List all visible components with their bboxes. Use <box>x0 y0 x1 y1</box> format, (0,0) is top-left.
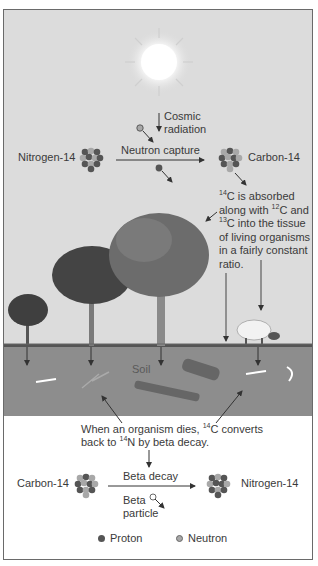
branch-icon <box>134 380 200 402</box>
log-icon <box>181 357 221 381</box>
legend-neutron: Neutron <box>176 532 227 545</box>
absorption-note: 14C is absorbed along with 12C and 13C i… <box>219 190 310 271</box>
proton-swatch-icon <box>98 535 105 542</box>
bottom-nitrogen-14-label: Nitrogen-14 <box>241 477 298 490</box>
bottom-nitrogen-14-nucleus-icon <box>207 474 231 499</box>
top-nitrogen-14-label: Nitrogen-14 <box>18 151 75 164</box>
twig-icon <box>82 372 109 388</box>
incoming-neutron-icon <box>137 125 153 142</box>
horn-icon <box>287 367 292 381</box>
sun-icon <box>125 28 193 96</box>
small-tree-icon <box>8 294 48 346</box>
neutron-capture-label: Neutron capture <box>121 144 200 157</box>
ejected-proton-icon <box>156 165 172 182</box>
bottom-carbon-14-nucleus-icon <box>75 474 99 499</box>
bottom-carbon-14-label: Carbon-14 <box>17 477 69 490</box>
death-arrow-left <box>102 396 122 423</box>
bone-icon <box>36 379 56 382</box>
sheep-icon <box>237 320 280 344</box>
legend-neutron-label: Neutron <box>188 532 227 545</box>
carbon-14-nucleus-icon <box>219 148 243 173</box>
neutron-swatch-icon <box>176 535 183 542</box>
carbon-to-note-arrow <box>235 173 246 185</box>
diagram-frame: Cosmic radiation Nitrogen-14 Neutron cap… <box>3 9 313 560</box>
legend-proton-label: Proton <box>110 532 142 545</box>
death-note: When an organism dies, 14C converts back… <box>81 423 263 449</box>
note-to-tree-arrow <box>206 212 217 221</box>
cosmic-radiation-label: Cosmic radiation <box>164 110 206 136</box>
soil-label: Soil <box>132 363 150 376</box>
bone-icon-2 <box>246 371 266 374</box>
large-tree-icon <box>109 213 209 346</box>
beta-particle-label: Beta particle <box>123 494 158 520</box>
death-arrow-right <box>216 391 242 423</box>
nitrogen-14-nucleus-icon <box>80 148 104 173</box>
top-carbon-14-label: Carbon-14 <box>248 151 300 164</box>
legend-proton: Proton <box>98 532 142 545</box>
beta-decay-label: Beta decay <box>123 470 178 483</box>
